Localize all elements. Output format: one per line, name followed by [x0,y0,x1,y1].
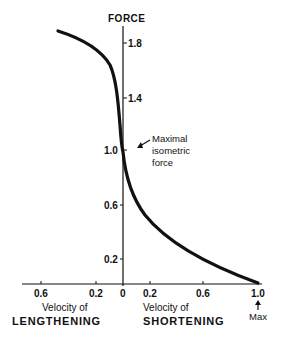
x-tick-left-0.6: 0.6 [34,288,48,299]
x-tick-0: 0 [120,288,126,299]
x-label-left-line2: LENGTHENING [12,315,101,327]
y-tick-0.6: 0.6 [104,200,118,211]
x-tick-right-0.6: 0.6 [196,288,210,299]
x-tick-right-1.0: 1.0 [251,288,265,299]
annotation-arrow-icon [137,140,150,148]
y-tick-0.2: 0.2 [104,254,118,265]
x-label-left-line1: Velocity of [42,302,88,313]
y-axis-title: FORCE [108,13,146,24]
y-tick-1.0: 1.0 [104,145,118,156]
annotation-line3: force [152,157,173,168]
annotation-line1: Maximal [152,133,187,144]
x-tick-left-0.2: 0.2 [89,288,103,299]
force-velocity-chart: FORCE 1.8 1.4 1.0 0.6 0.2 0.6 0.2 0 0.2 … [0,0,282,337]
x-label-right-line1: Velocity of [143,302,189,313]
x-tick-right-0.2: 0.2 [143,288,157,299]
x-label-right-line2: SHORTENING [143,315,224,327]
max-label: Max [249,311,267,322]
y-tick-1.4: 1.4 [128,93,142,104]
y-tick-1.8: 1.8 [128,38,142,49]
annotation-line2: isometric [152,145,190,156]
max-arrow-icon [255,300,261,310]
